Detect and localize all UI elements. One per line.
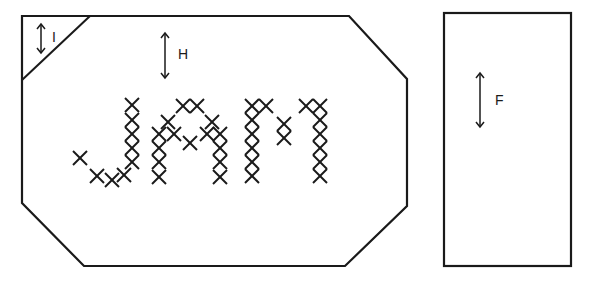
letter-j-stitches [73, 98, 139, 187]
letter-a-stitches [152, 99, 227, 184]
letter-m-stitches [245, 99, 327, 183]
label-h: H [178, 47, 188, 61]
pattern-diagram [0, 0, 589, 287]
label-f: F [495, 93, 504, 107]
left-panel-outline [22, 16, 407, 266]
right-panel-outline [444, 13, 571, 266]
label-i: I [52, 30, 56, 44]
corner-diagonal [22, 16, 90, 80]
